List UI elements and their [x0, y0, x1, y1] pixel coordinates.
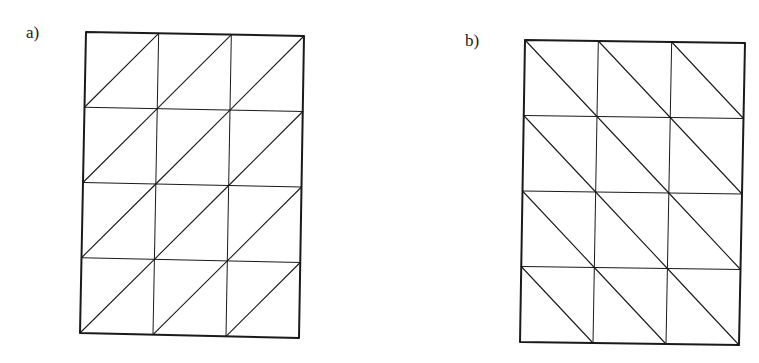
diagonal-edge: [598, 41, 670, 118]
diagonal-edge: [153, 261, 227, 335]
triangulated-grid-a: [80, 32, 304, 338]
diagonal-edge: [594, 268, 666, 345]
diagonal-edge: [525, 40, 597, 117]
diagonal-edge: [669, 193, 741, 270]
diagonal-edge: [229, 112, 303, 186]
diagonal-edge: [156, 110, 230, 184]
diagonal-edge: [226, 263, 300, 337]
diagonal-edge: [597, 117, 669, 194]
grid-line-horizontal: [524, 116, 744, 119]
grid-line-horizontal: [82, 258, 301, 263]
grid-line-horizontal: [523, 191, 743, 194]
grid-line-horizontal: [85, 107, 303, 111]
grid-line-horizontal: [521, 267, 740, 270]
triangulated-grid-b: [520, 40, 745, 345]
diagonal-edge: [667, 269, 739, 346]
diagonal-edge: [521, 267, 593, 344]
diagonal-edge: [523, 191, 595, 268]
diagonal-edge: [596, 192, 668, 269]
diagonal-edge: [672, 42, 744, 119]
diagonal-edge: [157, 35, 231, 109]
diagonal-edge: [83, 109, 157, 183]
diagonal-edge: [154, 186, 228, 260]
diagonal-edge: [670, 118, 742, 195]
grid-line-horizontal: [83, 183, 302, 188]
diagonal-edge: [80, 259, 154, 333]
mesh-diagrams: [0, 0, 759, 363]
diagonal-edge: [85, 33, 159, 107]
diagonal-edge: [230, 36, 304, 110]
diagonal-edge: [82, 184, 156, 258]
diagonal-edge: [227, 187, 301, 261]
diagonal-edge: [524, 116, 596, 193]
